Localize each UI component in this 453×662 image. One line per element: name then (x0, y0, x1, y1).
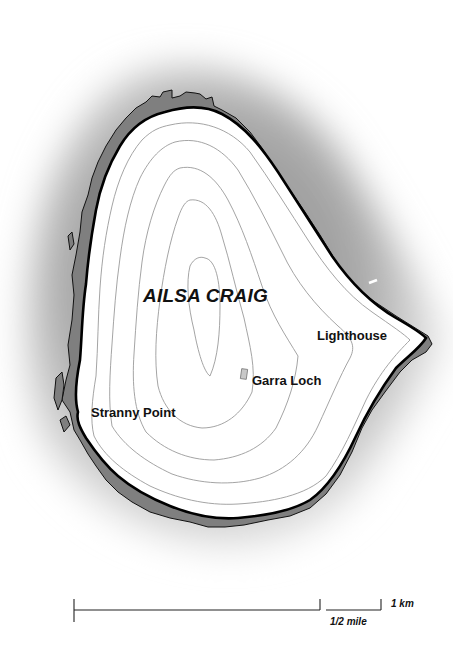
label-stranny-point: Stranny Point (91, 405, 176, 420)
map-title: AILSA CRAIG (143, 285, 268, 307)
scale-label-km: 1 km (391, 598, 414, 609)
scale-label-mile: 1/2 mile (330, 616, 367, 627)
label-lighthouse: Lighthouse (317, 328, 387, 343)
garra-loch-marker (240, 369, 247, 380)
label-garra-loch: Garra Loch (252, 373, 321, 388)
